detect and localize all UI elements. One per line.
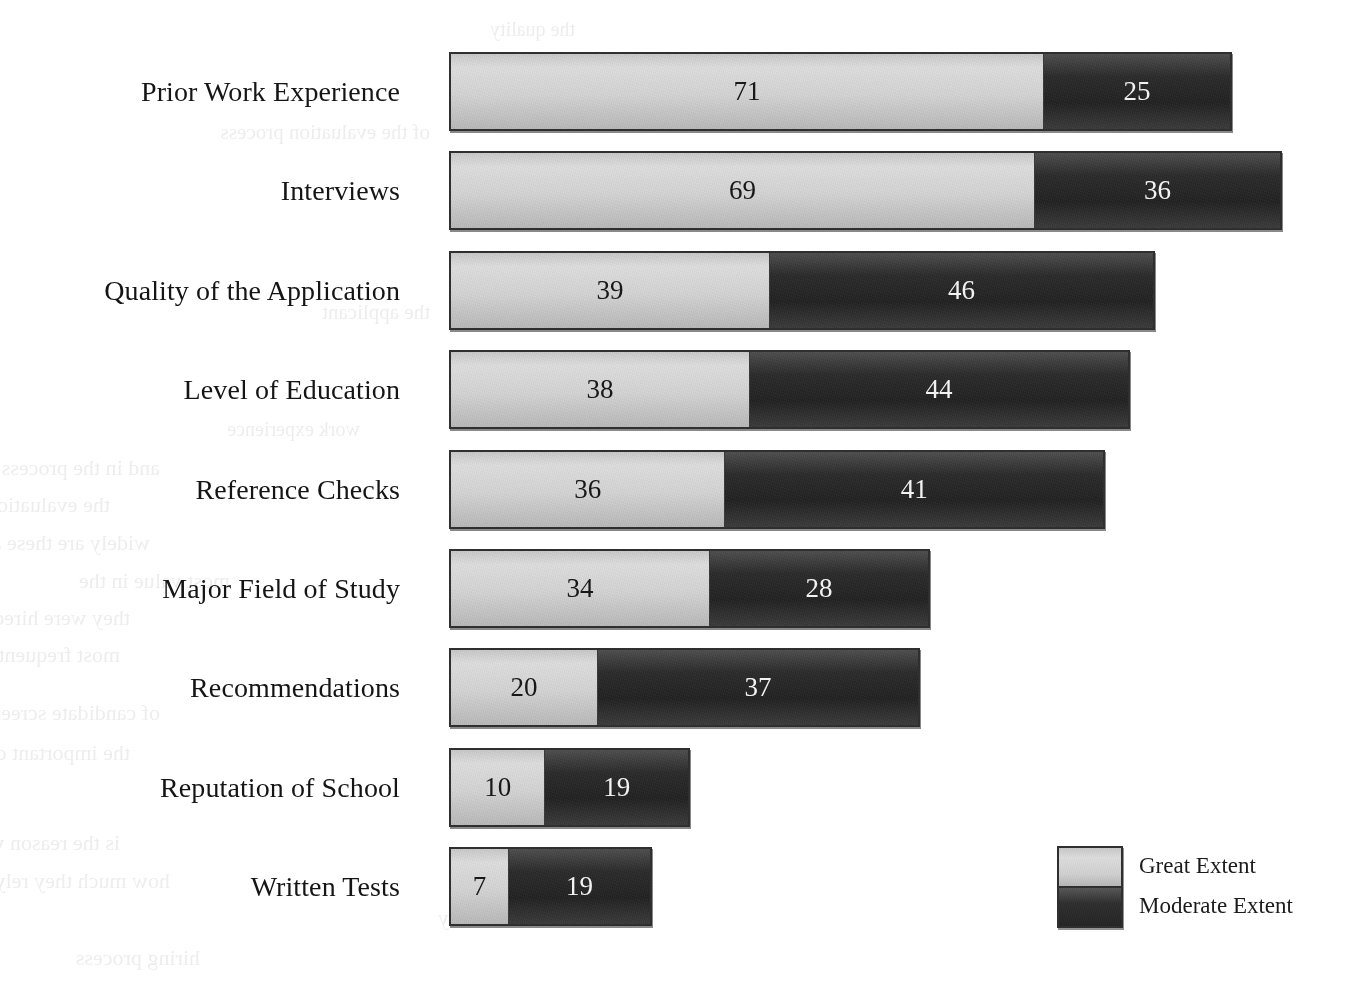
bar-segment-moderate-extent: 25 [1044, 54, 1230, 129]
chart-row: Major Field of Study 34 28 [0, 549, 1362, 628]
bar-segment-moderate-extent: 46 [770, 253, 1153, 328]
segment-value: 41 [901, 476, 928, 503]
bar-segment-moderate-extent: 41 [725, 452, 1103, 527]
legend-swatch-group [1057, 846, 1123, 928]
stacked-bar: 36 41 [449, 450, 1105, 529]
bar-segment-moderate-extent: 36 [1035, 153, 1280, 228]
chart-row: Quality of the Application 39 46 [0, 251, 1362, 330]
stacked-bar: 69 36 [449, 151, 1282, 230]
bar-segment-great-extent: 39 [451, 253, 770, 328]
chart-row: Recommendations 20 37 [0, 648, 1362, 727]
segment-value: 7 [473, 873, 487, 900]
category-label: Reference Checks [0, 450, 400, 529]
segment-value: 36 [1144, 177, 1171, 204]
segment-value: 28 [805, 575, 832, 602]
chart-legend: Great Extent Moderate Extent [1057, 846, 1293, 928]
stacked-bar: 7 19 [449, 847, 652, 926]
bar-segment-moderate-extent: 19 [545, 750, 688, 825]
segment-value: 19 [603, 774, 630, 801]
bar-segment-great-extent: 71 [451, 54, 1044, 129]
segment-value: 37 [744, 674, 771, 701]
bar-segment-moderate-extent: 44 [750, 352, 1128, 427]
segment-value: 19 [566, 873, 593, 900]
bar-segment-great-extent: 36 [451, 452, 725, 527]
stacked-bar: 10 19 [449, 748, 690, 827]
segment-value: 71 [733, 78, 760, 105]
segment-value: 69 [729, 177, 756, 204]
bar-segment-great-extent: 20 [451, 650, 598, 725]
bar-segment-great-extent: 69 [451, 153, 1035, 228]
chart-row: Interviews 69 36 [0, 151, 1362, 230]
bar-segment-great-extent: 10 [451, 750, 545, 825]
chart-row: Level of Education 38 44 [0, 350, 1362, 429]
stacked-bar: 20 37 [449, 648, 920, 727]
segment-value: 34 [566, 575, 593, 602]
stacked-bar-chart: Prior Work Experience 71 25 Interviews 6… [0, 0, 1362, 991]
legend-label-moderate-extent: Moderate Extent [1139, 886, 1293, 926]
bar-segment-moderate-extent: 19 [509, 849, 650, 924]
chart-row: Reputation of School 10 19 [0, 748, 1362, 827]
bar-segment-great-extent: 7 [451, 849, 509, 924]
segment-value: 10 [484, 774, 511, 801]
bar-segment-moderate-extent: 37 [598, 650, 918, 725]
bar-segment-great-extent: 38 [451, 352, 750, 427]
category-label: Level of Education [0, 350, 400, 429]
chart-row: Prior Work Experience 71 25 [0, 52, 1362, 131]
bar-segment-moderate-extent: 28 [710, 551, 928, 626]
category-label: Major Field of Study [0, 549, 400, 628]
legend-label-group: Great Extent Moderate Extent [1139, 846, 1293, 926]
segment-value: 46 [948, 277, 975, 304]
stacked-bar: 39 46 [449, 251, 1155, 330]
category-label: Quality of the Application [0, 251, 400, 330]
category-label: Recommendations [0, 648, 400, 727]
segment-value: 20 [510, 674, 537, 701]
stacked-bar: 34 28 [449, 549, 930, 628]
stacked-bar: 38 44 [449, 350, 1130, 429]
segment-value: 38 [587, 376, 614, 403]
stacked-bar: 71 25 [449, 52, 1232, 131]
category-label: Written Tests [0, 847, 400, 926]
legend-label-great-extent: Great Extent [1139, 846, 1293, 886]
legend-swatch-great-extent [1059, 848, 1121, 888]
segment-value: 39 [597, 277, 624, 304]
legend-swatch-moderate-extent [1059, 888, 1121, 926]
category-label: Prior Work Experience [0, 52, 400, 131]
segment-value: 25 [1123, 78, 1150, 105]
category-label: Reputation of School [0, 748, 400, 827]
category-label: Interviews [0, 151, 400, 230]
bar-segment-great-extent: 34 [451, 551, 710, 626]
segment-value: 36 [574, 476, 601, 503]
chart-row: Reference Checks 36 41 [0, 450, 1362, 529]
segment-value: 44 [926, 376, 953, 403]
